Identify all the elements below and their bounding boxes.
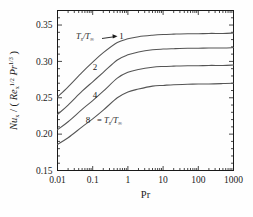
curve-label-4: 4 (93, 90, 98, 100)
x-tick-label: 0.1 (87, 175, 99, 185)
curve-2 (58, 48, 234, 115)
figure-container: 0.010.11101001000Pr0.150.200.250.300.35N… (0, 0, 253, 217)
y-tick-label: 0.30 (36, 57, 53, 67)
x-tick-label: 0.01 (49, 175, 66, 185)
y-tick-label: 0.15 (36, 166, 53, 176)
x-tick-label: 1 (126, 175, 131, 185)
curve-label-1: 1 (119, 31, 124, 41)
x-tick-label: 100 (191, 175, 206, 185)
x-axis-title: Pr (141, 189, 151, 200)
chart-canvas: 0.010.11101001000Pr0.150.200.250.300.35N… (0, 0, 253, 217)
curve-8 (58, 83, 234, 144)
annotation-bottom-ratio: = Ts/T∞ (97, 115, 122, 126)
y-tick-label: 0.35 (36, 20, 53, 30)
curve-4 (58, 65, 234, 130)
y-axis-title: Nux / ( Rex1/2 Pr1/3 ) (7, 51, 20, 131)
curve-label-2: 2 (93, 62, 98, 72)
y-tick-label: 0.20 (36, 129, 53, 139)
annotation-top-ratio: Ts/T∞ (76, 31, 94, 42)
annotation-arrow-head (113, 34, 118, 38)
x-tick-label: 1000 (224, 175, 243, 185)
curve-label-8: 8 (86, 115, 91, 125)
y-tick-label: 0.25 (36, 93, 53, 103)
x-tick-label: 10 (158, 175, 168, 185)
